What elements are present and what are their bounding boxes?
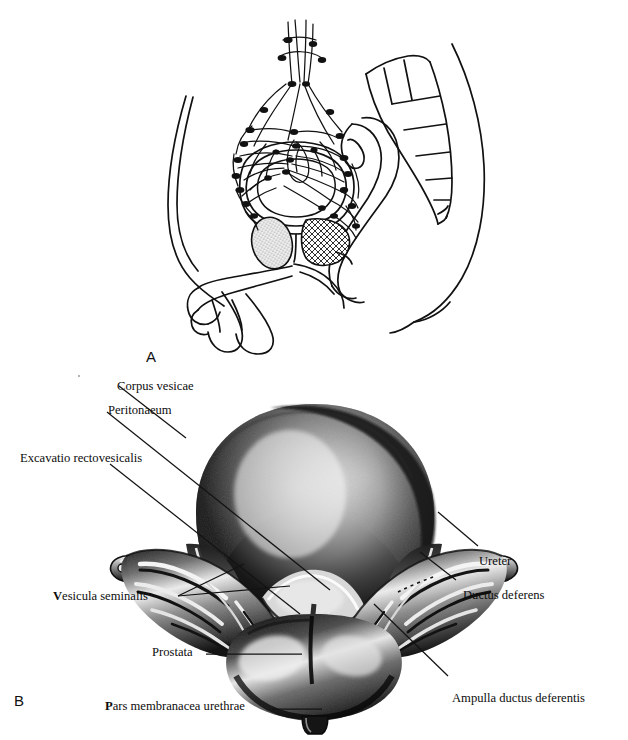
sacrum-anterior-edge [366,74,438,224]
sacral-seg-line-4 [426,178,452,180]
rectum-posterior-wall [338,118,399,292]
sacral-seg-line-2 [404,124,446,130]
label-vesicula-seminalis-rest: esicula seminalis [62,589,148,603]
label-vesicula-seminalis: Vesicula seminalis [53,590,148,603]
coccyx-seg [438,206,448,214]
sacral-seg-line-1 [392,96,440,104]
abdominal-wall-inner [177,97,198,271]
panel-letter-a: A [146,348,157,365]
label-pars-membranacea-rest: ars membranacea urethrae [113,699,245,713]
panel-letter-b: B [14,692,25,709]
sacral-seg-line-3 [416,152,450,156]
sacral-seg-1 [384,68,392,104]
anal-canal-inner [332,286,356,299]
urethra-prostatic [294,234,296,262]
label-ampulla-ductus-deferentis: Ampulla ductus deferentis [452,692,585,705]
label-pars-membranacea-initial: P [105,699,113,713]
leader-ureter [438,512,478,546]
panel-a-lymphatics-sagittal [0,0,628,370]
lymph-nodes [232,37,360,229]
print-speck [78,375,80,377]
coccyx-tip [438,216,447,224]
prostate-median-sulcus [311,616,313,684]
label-ductus-deferens: Ductus deferens [463,589,544,602]
prostata [226,614,402,720]
pelvic-floor [294,264,344,308]
label-prostata: Prostata [152,646,193,659]
label-peritonaeum: Peritonaeum [108,404,172,417]
sacrum-posterior-edge [430,62,452,218]
sacrum-top-edge [366,56,430,74]
anatomical-plate: A B Corpus vesicae Peritonaeum Excavatio… [0,0,628,740]
label-ureter: Ureter [479,555,511,568]
back-contour [414,44,484,322]
label-corpus-vesicae: Corpus vesicae [117,380,194,393]
rectal-ampulla-folds [341,124,364,168]
panel-b-bladder-posterior-view [0,366,628,740]
penis-dorsum [198,266,292,288]
perineal-contour [390,322,414,333]
pars-membranacea-urethrae [302,716,328,734]
bladder-highlight [234,430,346,558]
label-vesicula-seminalis-initial: V [53,589,62,603]
seminal-vesicle-hatched [302,219,350,266]
panel-b-engraving [0,366,628,740]
panel-a-drawing [0,0,628,370]
sacral-seg-2 [404,60,412,100]
label-pars-membranacea-urethrae: Pars membranacea urethrae [105,700,245,713]
label-excavatio-rectovesicalis: Excavatio rectovesicalis [20,452,142,465]
glans-lower [191,310,208,335]
